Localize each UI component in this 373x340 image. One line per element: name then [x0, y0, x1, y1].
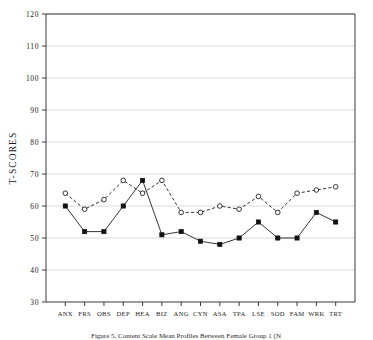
data-point: [83, 230, 87, 234]
y-axis-title: T-SCORES: [8, 132, 18, 185]
series-2: [63, 178, 338, 215]
data-point: [333, 185, 338, 190]
y-tick-label: 100: [26, 74, 39, 83]
y-tick-label: 40: [30, 266, 39, 275]
data-point: [198, 210, 203, 215]
x-tick-label-sod: SOD: [271, 310, 285, 317]
data-point: [218, 242, 222, 246]
x-tick-label-tpa: TPA: [233, 310, 246, 317]
y-tick-label: 90: [30, 106, 39, 115]
data-point: [121, 178, 126, 183]
data-point: [276, 236, 280, 240]
x-tick-label-anx: ANX: [58, 310, 73, 317]
data-point: [82, 207, 87, 212]
data-point: [314, 210, 318, 214]
data-point: [179, 230, 183, 234]
x-tick-label-trt: TRT: [329, 310, 342, 317]
data-point: [275, 210, 280, 215]
figure-container: 30405060708090100110120ANXFRSOBSDEPHEABI…: [0, 0, 373, 340]
data-point: [121, 204, 125, 208]
x-tick-label-fam: FAM: [290, 310, 305, 317]
y-axis-ticks: 30405060708090100110120: [26, 10, 46, 307]
x-tick-label-dep: DEP: [116, 310, 130, 317]
x-tick-label-lse: LSE: [252, 310, 265, 317]
data-point: [160, 178, 165, 183]
y-tick-label: 80: [30, 138, 39, 147]
x-tick-label-hea: HEA: [135, 310, 150, 317]
data-point: [295, 191, 300, 196]
line-chart: 30405060708090100110120ANXFRSOBSDEPHEABI…: [0, 0, 373, 340]
data-point: [295, 236, 299, 240]
data-point: [160, 233, 164, 237]
x-tick-label-obs: OBS: [97, 310, 111, 317]
data-point: [237, 236, 241, 240]
data-point: [102, 197, 107, 202]
y-tick-label: 110: [26, 42, 39, 51]
data-point: [63, 191, 68, 196]
x-tick-label-wrk: WRK: [308, 310, 324, 317]
y-tick-label: 70: [30, 170, 39, 179]
data-point: [314, 188, 319, 193]
y-tick-label: 50: [30, 234, 39, 243]
data-point: [218, 204, 223, 209]
data-point: [198, 239, 202, 243]
x-tick-label-ang: ANG: [174, 310, 189, 317]
x-tick-label-cyn: CYN: [193, 310, 208, 317]
data-point: [334, 220, 338, 224]
x-tick-label-biz: BIZ: [156, 310, 168, 317]
x-tick-label-frs: FRS: [78, 310, 91, 317]
data-point: [102, 230, 106, 234]
x-tick-label-asa: ASA: [213, 310, 227, 317]
series-line-2: [65, 180, 335, 212]
y-tick-label: 120: [26, 10, 39, 19]
data-point: [256, 194, 261, 199]
data-point: [237, 207, 242, 212]
data-point: [179, 210, 184, 215]
data-point: [140, 191, 145, 196]
x-axis-ticks: ANXFRSOBSDEPHEABIZANGCYNASATPALSESODFAMW…: [58, 302, 343, 317]
data-point: [256, 220, 260, 224]
data-point: [63, 204, 67, 208]
data-point: [140, 178, 144, 182]
y-tick-label: 30: [30, 298, 39, 307]
axes: [46, 14, 355, 302]
y-tick-label: 60: [30, 202, 39, 211]
